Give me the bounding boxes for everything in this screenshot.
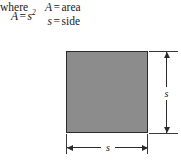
area-formula: A=s2 bbox=[11, 11, 36, 23]
where-equals-side: = bbox=[52, 15, 62, 27]
square-shape bbox=[66, 51, 148, 133]
formula-exponent: 2 bbox=[32, 8, 36, 17]
arrowhead-down-icon bbox=[164, 127, 170, 133]
arrowhead-right-icon bbox=[142, 145, 148, 151]
extension-line-bottom-right bbox=[149, 133, 178, 134]
formula-variable-area: A bbox=[11, 10, 18, 22]
where-symbol-area: A bbox=[38, 0, 52, 14]
formula-equals-sign: = bbox=[18, 10, 28, 22]
arrowhead-up-icon bbox=[164, 52, 170, 58]
where-symbol-side: s bbox=[38, 14, 52, 28]
where-meaning-side: side bbox=[62, 15, 81, 27]
where-meaning-area: area bbox=[62, 1, 81, 13]
arrowhead-left-icon bbox=[67, 145, 73, 151]
dimension-label-right-side: s bbox=[160, 87, 173, 100]
where-equals-area: = bbox=[52, 1, 62, 13]
dimension-label-bottom-side: s bbox=[101, 141, 115, 154]
square-area-figure: A=s2 whereA=area s=side s s bbox=[0, 0, 181, 160]
